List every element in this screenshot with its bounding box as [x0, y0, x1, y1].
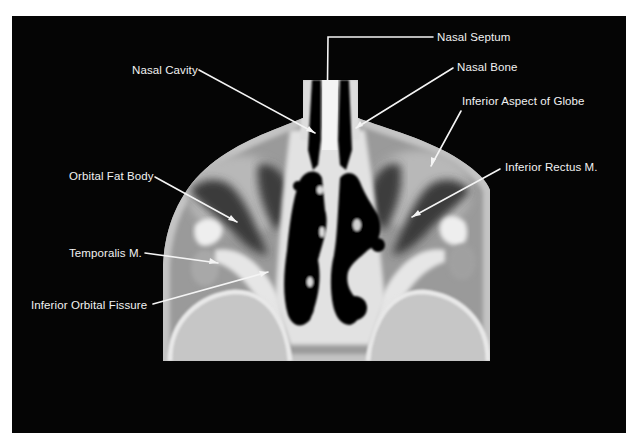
label-nasal-bone: Nasal Bone — [457, 61, 517, 74]
label-orbital-fat-body: Orbital Fat Body — [69, 170, 154, 183]
label-inferior-orbital-fissure: Inferior Orbital Fissure — [31, 299, 147, 312]
pointer-nasal-bone — [356, 68, 453, 128]
label-nasal-cavity: Nasal Cavity — [132, 64, 198, 77]
ct-scan-image — [0, 0, 637, 447]
label-temporalis: Temporalis M. — [69, 247, 142, 260]
label-nasal-septum: Nasal Septum — [437, 31, 510, 44]
pointer-nasal-cavity — [199, 70, 315, 133]
label-inferior-aspect-of-globe: Inferior Aspect of Globe — [462, 95, 585, 108]
label-inferior-rectus: Inferior Rectus M. — [505, 161, 598, 174]
